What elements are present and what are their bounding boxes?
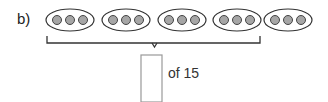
- group-oval-4: [213, 9, 261, 31]
- answer-box[interactable]: [141, 55, 162, 102]
- bracket: [47, 36, 260, 47]
- of-total-label: of 15: [168, 65, 199, 81]
- group-oval-5: [264, 9, 312, 31]
- grouping-diagram: [0, 0, 328, 102]
- group-oval-2: [102, 9, 150, 31]
- group-oval-1: [46, 9, 94, 31]
- group-oval-3: [158, 9, 206, 31]
